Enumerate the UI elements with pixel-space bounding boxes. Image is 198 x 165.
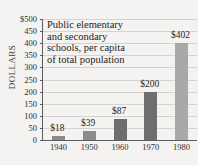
y-axis-tick-mark xyxy=(40,80,43,81)
y-axis-tick-label: 200 xyxy=(0,87,37,96)
y-axis-tick-mark xyxy=(40,43,43,44)
y-axis-tick-label: 400 xyxy=(0,39,37,48)
chart-title-line: of total population xyxy=(47,54,167,66)
y-axis-tick-mark xyxy=(40,92,43,93)
x-axis-tick-label-1970: 1970 xyxy=(142,142,159,152)
y-axis-tick-label: 350 xyxy=(0,51,37,60)
y-axis-tick-label: 300 xyxy=(0,63,37,72)
bar-chart: DOLLARS 050100150200250300350400450$500 … xyxy=(0,0,198,165)
gridline xyxy=(43,116,197,117)
chart-title-line: Public elementary xyxy=(47,19,167,31)
bar-1980 xyxy=(175,43,188,140)
bar-value-label-1950: $39 xyxy=(81,118,95,128)
y-axis-tick-mark xyxy=(40,31,43,32)
chart-title-line: schools, per capita xyxy=(47,42,167,54)
chart-title-line: and secondary xyxy=(47,31,167,43)
y-axis-tick-label: 0 xyxy=(0,136,37,145)
y-axis-tick-label: 450 xyxy=(0,27,37,36)
y-axis-tick-label: 50 xyxy=(0,124,37,133)
y-axis-tick-mark xyxy=(40,104,43,105)
x-axis-tick-label-1980: 1980 xyxy=(173,142,190,152)
bar-1960 xyxy=(114,119,127,140)
y-axis-tick-label: 250 xyxy=(0,75,37,84)
gridline xyxy=(43,80,197,81)
bar-value-label-1980: $402 xyxy=(171,30,190,40)
chart-title: Public elementaryand secondaryschools, p… xyxy=(47,19,167,65)
bar-value-label-1940: $18 xyxy=(50,123,64,133)
y-axis-tick-mark xyxy=(40,128,43,129)
y-axis-tick-mark xyxy=(40,55,43,56)
y-axis-tick-mark xyxy=(40,67,43,68)
gridline xyxy=(43,67,197,68)
y-axis-tick-label: 100 xyxy=(0,112,37,121)
y-axis-tick-mark xyxy=(40,116,43,117)
y-axis-tick-label: $500 xyxy=(0,15,37,24)
bar-1970 xyxy=(144,92,157,140)
x-axis-tick-label-1940: 1940 xyxy=(50,142,67,152)
gridline xyxy=(43,92,197,93)
bar-value-label-1970: $200 xyxy=(140,79,159,89)
bar-1940 xyxy=(52,136,65,140)
y-axis-tick-labels: 050100150200250300350400450$500 xyxy=(0,0,37,165)
y-axis-tick-mark xyxy=(40,19,43,20)
y-axis-tick-label: 150 xyxy=(0,99,37,108)
gridline xyxy=(43,104,197,105)
x-axis-tick-label-1950: 1950 xyxy=(81,142,98,152)
x-axis-tick-label-1960: 1960 xyxy=(112,142,129,152)
bar-1950 xyxy=(83,131,96,140)
y-axis-tick-mark xyxy=(40,140,43,141)
bar-value-label-1960: $87 xyxy=(112,106,126,116)
